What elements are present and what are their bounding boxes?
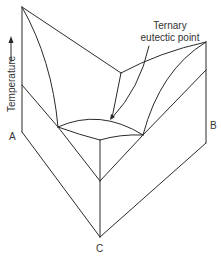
curve-b-to-rvalley	[143, 42, 206, 135]
callout-line2: eutectic point	[128, 32, 212, 44]
liquidus-a-to-ridge	[22, 7, 121, 73]
liquidus-ridge-to-b	[121, 42, 206, 73]
callout-leader-line	[112, 46, 149, 118]
temperature-arrow-icon	[9, 36, 14, 43]
curve-center-to-rvalley	[100, 135, 143, 140]
curve-a-to-valley	[22, 7, 58, 127]
callout-line1: Ternary	[128, 20, 212, 32]
face-line-valley-to-c	[58, 127, 100, 181]
curve-lvalley-to-center	[58, 127, 100, 140]
face-line-c-to-rvalley	[100, 135, 143, 181]
curve-lvalley-to-rvalley	[58, 119, 143, 135]
ridge-to-eutectic	[112, 73, 121, 118]
vertex-label-c: C	[96, 244, 103, 254]
face-line-b-to-bottom	[143, 70, 206, 135]
temperature-axis-label: Temperature	[6, 56, 17, 112]
vertex-label-b: B	[210, 121, 217, 131]
base-edge-ac	[22, 132, 100, 237]
vertex-label-a: A	[9, 132, 16, 142]
eutectic-callout: Ternary eutectic point	[128, 20, 212, 44]
base-edge-cb	[100, 143, 206, 237]
